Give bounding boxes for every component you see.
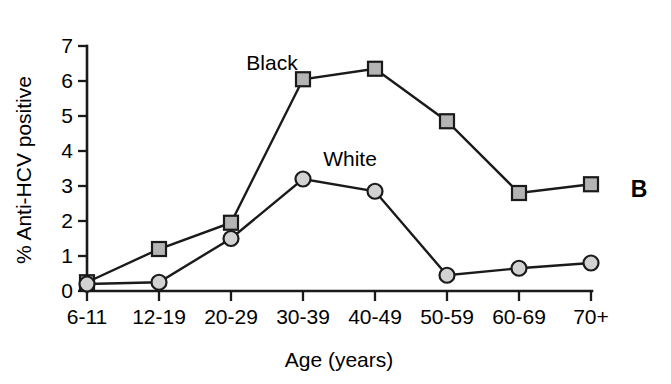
- y-tick-label: 3: [61, 174, 73, 197]
- x-tick-label: 30-39: [276, 305, 330, 328]
- y-axis-ticks: 01234567: [61, 34, 87, 302]
- y-tick-label: 6: [61, 69, 73, 92]
- series-label-white: White: [323, 147, 377, 170]
- data-point-marker: [584, 256, 599, 271]
- x-tick-label: 40-49: [348, 305, 402, 328]
- x-tick-label: 60-69: [492, 305, 546, 328]
- panel-label: B: [631, 176, 648, 202]
- anti-hcv-age-line-chart: % Anti-HCV positive 01234567 6-1112-1920…: [0, 0, 671, 384]
- data-point-marker: [440, 114, 454, 128]
- data-point-marker: [512, 186, 526, 200]
- y-tick-label: 7: [61, 34, 73, 57]
- data-point-marker: [296, 72, 310, 86]
- data-point-marker: [368, 62, 382, 76]
- data-point-marker: [296, 172, 311, 187]
- data-point-marker: [224, 216, 238, 230]
- x-tick-label: 6-11: [67, 305, 107, 328]
- x-axis-title: Age (years): [285, 348, 394, 371]
- x-tick-label: 20-29: [204, 305, 258, 328]
- x-tick-label: 70+: [573, 305, 609, 328]
- data-point-marker: [584, 177, 598, 191]
- data-point-marker: [80, 277, 95, 292]
- data-point-marker: [512, 261, 527, 276]
- data-point-marker: [440, 268, 455, 283]
- data-point-marker: [152, 242, 166, 256]
- y-tick-label: 0: [61, 279, 73, 302]
- y-tick-label: 1: [61, 244, 73, 267]
- y-axis-title: % Anti-HCV positive: [12, 76, 35, 264]
- x-axis-ticks: 6-1112-1920-2930-3940-4950-5960-6970+: [67, 291, 609, 328]
- series-label-black: Black: [246, 51, 298, 74]
- chart-figure: % Anti-HCV positive 01234567 6-1112-1920…: [0, 0, 671, 384]
- y-tick-label: 4: [61, 139, 73, 162]
- y-tick-label: 2: [61, 209, 73, 232]
- x-tick-label: 12-19: [132, 305, 186, 328]
- data-point-marker: [224, 231, 239, 246]
- data-point-marker: [152, 275, 167, 290]
- series-layer: [80, 62, 599, 292]
- x-tick-label: 50-59: [420, 305, 474, 328]
- y-tick-label: 5: [61, 104, 73, 127]
- data-point-marker: [368, 184, 383, 199]
- series-black: [80, 62, 598, 290]
